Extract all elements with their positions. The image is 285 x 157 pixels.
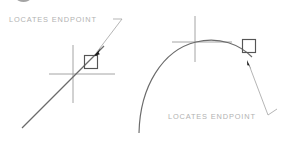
callout-label-left: LOCATES ENDPOINT: [9, 16, 97, 23]
leader-line-left: [97, 19, 123, 53]
endpoint-snap-marker-square-left: [85, 56, 98, 69]
crosshair-cursor-left: [49, 45, 115, 103]
callout-label-right: LOCATES ENDPOINT: [168, 113, 256, 120]
leader-tail-right: [268, 109, 277, 115]
figure-root: LOCATES ENDPOINT LOCATES ENDPOINT: [0, 0, 285, 157]
callout-leader-left: [94, 19, 122, 56]
callout-leader-right: [247, 60, 277, 115]
leader-line-right: [249, 64, 269, 116]
line-geometry: [22, 46, 104, 128]
crosshair-cursor-right: [172, 16, 232, 62]
left-panel: [22, 19, 122, 128]
